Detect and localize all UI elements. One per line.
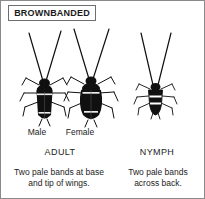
- label-adult-stage: ADULT: [15, 147, 105, 157]
- illustration-stage: [1, 23, 205, 138]
- title-box: BROWNBANDED: [8, 5, 96, 21]
- caption-adult: Two pale bands at base and tip of wings.: [7, 167, 111, 189]
- label-female: Female: [58, 127, 102, 137]
- label-male: Male: [20, 127, 54, 137]
- caption-nymph: Two pale bands across back.: [115, 167, 201, 189]
- page-title: BROWNBANDED: [14, 8, 90, 18]
- brownbanded-cockroach-id-card: BROWNBANDED: [0, 0, 205, 199]
- label-nymph-stage: NYMPH: [117, 147, 197, 157]
- cockroach-female-figure: [61, 23, 123, 135]
- cockroach-nymph-figure: [127, 23, 185, 135]
